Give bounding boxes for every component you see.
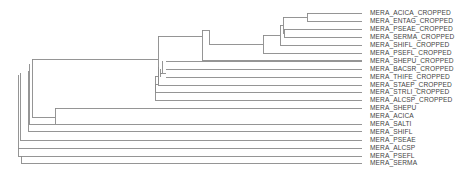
leaf-label: MERA_ACICA_CROPPED xyxy=(370,9,451,17)
leaf-label: MERA_STRLI_CROPPED xyxy=(370,88,449,96)
leaf-label: MERA_SHEPU xyxy=(370,104,416,112)
leaf-label: MERA_SERMA xyxy=(370,159,417,167)
leaf-label: MERA_SHIFL_CROPPED xyxy=(370,41,449,49)
leaf-label: MERA_PSEAE_CROPPED xyxy=(370,25,453,33)
leaf-label: MERA_SALTI xyxy=(370,120,412,128)
leaf-label: MERA_SHEPU_CROPPED xyxy=(370,57,454,65)
tree-branches xyxy=(18,13,362,163)
leaf-label: MERA_ACICA xyxy=(370,112,414,120)
leaf-label: MERA_SERMA_CROPPED xyxy=(370,33,454,41)
leaf-label: MERA_PSEFL_CROPPED xyxy=(370,49,452,57)
leaf-label: MERA_SHIFL xyxy=(370,128,412,136)
leaf-label: MERA_ALCSP_CROPPED xyxy=(370,96,452,104)
leaf-label: MERA_THIFE_CROPPED xyxy=(370,73,450,81)
leaf-label: MERA_ENTAG_CROPPED xyxy=(370,17,453,25)
leaf-label: MERA_ALCSP xyxy=(370,144,415,152)
leaf-label: MERA_PSEAE xyxy=(370,136,416,144)
leaf-label: MERA_BACSR_CROPPED xyxy=(370,65,454,73)
